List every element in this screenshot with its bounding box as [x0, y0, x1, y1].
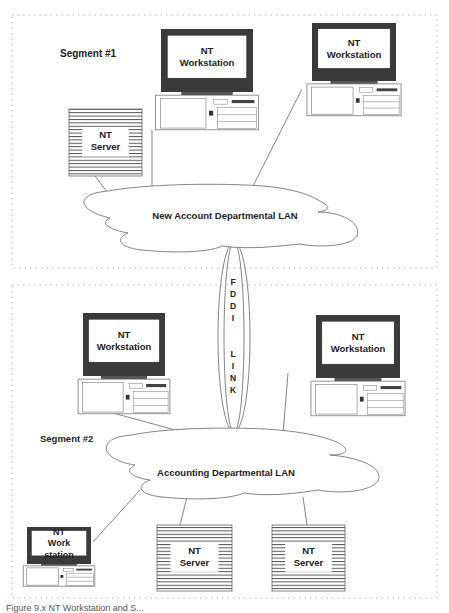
link-letter: I — [232, 361, 234, 371]
connection-line — [283, 373, 288, 434]
connection-line — [93, 490, 140, 542]
lan-label: Accounting Departmental LAN — [157, 467, 295, 478]
node-label: Workstation — [331, 343, 386, 354]
segment-2-label: Segment #2 — [40, 433, 93, 444]
figure-caption: Figure 9.x NT Workstation and S... — [6, 603, 144, 613]
fddi-letter: D — [230, 289, 236, 299]
node-label: Work — [48, 538, 71, 548]
link-letter: N — [230, 373, 236, 383]
fddi-letter: F — [230, 277, 235, 287]
node-label: NT — [53, 527, 65, 537]
node-label: NT — [352, 331, 365, 342]
node-label: NT — [201, 45, 214, 56]
node-label: NT — [188, 545, 201, 556]
nt-workstation: NTWorkstation — [311, 315, 405, 416]
link-letter: L — [230, 349, 235, 359]
nt-server: NTServer — [69, 109, 142, 176]
lan-cloud-accounting: Accounting Departmental LAN — [106, 428, 379, 499]
connection-line — [253, 89, 302, 186]
node-label: Workstation — [97, 341, 152, 352]
node-label: Workstation — [327, 49, 382, 60]
node-label: NT — [348, 37, 361, 48]
node-label: Server — [180, 557, 210, 568]
connection-line — [180, 497, 187, 525]
nt-workstation: NTWorkstation — [78, 313, 170, 414]
nt-workstation: NTWorkstation — [155, 29, 258, 130]
segment-1-label: Segment #1 — [60, 48, 117, 59]
node-label: NT — [118, 329, 131, 340]
fddi-letter: D — [230, 301, 236, 311]
fddi-letter: I — [232, 313, 234, 323]
nt-workstation: NTWorkstation — [307, 23, 401, 116]
fddi-link: F D D I L I N K — [218, 242, 250, 432]
node-label: station — [44, 550, 74, 560]
lan-cloud-new-account: New Account Departmental LAN — [84, 184, 358, 252]
node-label: NT — [99, 129, 112, 140]
node-label: Server — [91, 141, 121, 152]
lan-label: New Account Departmental LAN — [152, 210, 297, 221]
node-label: Workstation — [180, 57, 235, 68]
connection-line — [95, 176, 108, 193]
nt-workstation: NTWorkstation — [23, 527, 95, 586]
nt-server: NTServer — [272, 525, 345, 591]
nt-server: NTServer — [157, 525, 232, 591]
link-letter: K — [230, 385, 237, 395]
connection-line — [303, 497, 307, 525]
node-label: NT — [302, 545, 315, 556]
node-label: Server — [294, 557, 324, 568]
